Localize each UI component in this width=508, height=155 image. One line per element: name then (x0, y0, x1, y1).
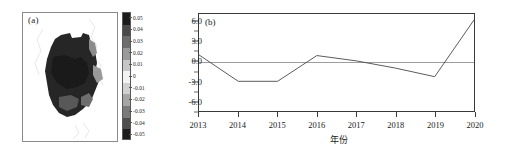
colorbar-segment (123, 60, 130, 72)
x-axis-tick-mark (356, 112, 357, 117)
colorbar-tick-label: 0 (133, 73, 136, 79)
colorbar-segment (123, 13, 130, 25)
trend-line-series (199, 14, 474, 111)
colorbar-tick-label: -0.04 (133, 120, 145, 126)
y-axis-tick-mark (192, 81, 198, 82)
plot-area: (b) (198, 13, 475, 112)
x-axis-title: 年份 (170, 133, 508, 146)
x-axis-tick-mark (198, 112, 199, 117)
x-axis-tick-label: 2017 (348, 120, 365, 130)
panel-a-label: (a) (28, 15, 39, 25)
colorbar-tick-label: -0.03 (133, 108, 145, 114)
x-axis-tick-label: 2019 (427, 120, 444, 130)
colorbar-segment (123, 83, 130, 95)
colorbar-segment (123, 36, 130, 48)
y-axis-minor-tick (194, 71, 198, 72)
map-frame: (a) (22, 12, 118, 142)
y-axis-minor-tick (194, 91, 198, 92)
colorbar-segment (123, 106, 130, 118)
colorbar-segment (123, 25, 130, 37)
y-axis-tick-mark (192, 61, 198, 62)
colorbar-segment (123, 94, 130, 106)
colorbar-tick-label: -0.02 (133, 96, 145, 102)
figure-container: (a) 0.050.040.030.020.010-0.01-0.02-0.03… (0, 0, 508, 155)
x-axis-tick-label: 2020 (467, 120, 484, 130)
colorbar-tick-label: 0.01 (133, 61, 143, 67)
panel-b-label: (b) (205, 17, 216, 27)
x-axis-tick-label: 2015 (269, 120, 286, 130)
x-axis-tick-mark (277, 112, 278, 117)
colorbar-tick-labels: 0.050.040.030.020.010-0.01-0.02-0.03-0.0… (133, 12, 168, 140)
colorbar-tick-label: 0.05 (133, 15, 143, 21)
data-series-line (199, 20, 474, 81)
y-axis-minor-tick (194, 51, 198, 52)
x-axis-tick-mark (435, 112, 436, 117)
panel-b: (b) 6.03.00.0-3.0-6.0 201320142015201620… (170, 0, 508, 155)
y-axis-tick-mark (192, 41, 198, 42)
colorbar-tick-label: -0.05 (133, 131, 145, 137)
colorbar-tick-label: 0.02 (133, 50, 143, 56)
spatial-map-graphic (23, 13, 117, 141)
panel-a: (a) 0.050.040.030.020.010-0.01-0.02-0.03… (0, 0, 170, 155)
x-axis-tick-mark (238, 112, 239, 117)
y-axis-tick-mark (192, 101, 198, 102)
x-axis-tick-label: 2013 (190, 120, 207, 130)
y-axis-minor-tick (194, 31, 198, 32)
x-axis-tick-mark (317, 112, 318, 117)
x-axis-tick-mark (475, 112, 476, 117)
colorbar-segment (123, 118, 130, 130)
x-axis-tick-mark (396, 112, 397, 117)
colorbar-segment (123, 71, 130, 83)
colorbar-tick-label: 0.04 (133, 26, 143, 32)
colorbar-tick-label: -0.01 (133, 85, 145, 91)
colorbar: 0.050.040.030.020.010-0.01-0.02-0.03-0.0… (122, 12, 168, 140)
x-axis-tick-label: 2014 (229, 120, 246, 130)
x-axis-tick-label: 2018 (387, 120, 404, 130)
y-axis-tick-mark (192, 21, 198, 22)
colorbar-segment (123, 48, 130, 60)
colorbar-tick-label: 0.03 (133, 38, 143, 44)
x-axis-tick-label: 2016 (308, 120, 325, 130)
